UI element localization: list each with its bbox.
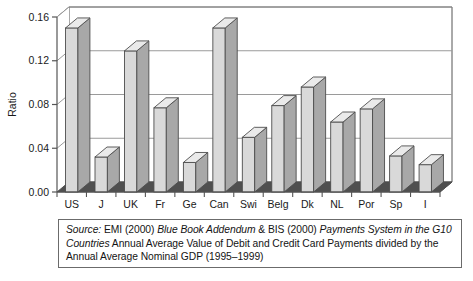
y-tick-label: 0.08 [29, 98, 50, 110]
x-tick-label-sp: Sp [389, 198, 402, 210]
y-axis-title: Ratio [6, 92, 18, 117]
y-tick-label: 0.00 [29, 186, 50, 198]
bar-chart: 0.000.040.080.120.16 USJUKFrGeCanSwiBelg… [0, 0, 473, 214]
x-tick-label-fr: Fr [155, 198, 165, 210]
x-tick-label-us: US [64, 198, 79, 210]
x-tick-label-uk: UK [123, 198, 138, 210]
bar-sp [390, 146, 414, 192]
x-tick-label-nl: NL [330, 198, 344, 210]
x-tick-label-ge: Ge [183, 198, 197, 210]
bar-nl [331, 112, 355, 192]
bar-dk [301, 77, 325, 192]
bar-por [360, 99, 384, 192]
bar-j [95, 147, 119, 192]
x-tick-label-j: J [99, 198, 104, 210]
bar-belg [272, 96, 296, 192]
caption-bis-segment: & BIS (2000) [256, 224, 320, 235]
caption-source-label: Source: [66, 224, 101, 235]
caption-emi-segment: EMI (2000) [101, 224, 157, 235]
x-axis: USJUKFrGeCanSwiBelgDkNLPorSpI [57, 192, 440, 210]
y-tick-label: 0.04 [29, 142, 50, 154]
bar-us [66, 18, 90, 192]
y-axis: 0.000.040.080.120.16 [29, 11, 57, 198]
bar-swi [242, 127, 266, 192]
bar-fr [154, 98, 178, 192]
y-tick-label: 0.16 [29, 11, 50, 23]
source-caption-text: Source: EMI (2000) Blue Book Addendum & … [66, 223, 455, 264]
x-tick-label-i: I [424, 198, 427, 210]
x-tick-label-belg: Belg [267, 198, 288, 210]
source-caption-box: Source: EMI (2000) Blue Book Addendum & … [58, 219, 462, 268]
bar-uk [124, 41, 148, 192]
x-tick-label-can: Can [209, 198, 228, 210]
figure-container: 0.000.040.080.120.16 USJUKFrGeCanSwiBelg… [0, 0, 473, 281]
bar-can [213, 18, 237, 192]
y-tick-label: 0.12 [29, 54, 50, 66]
caption-bluebook-title: Blue Book Addendum [157, 224, 255, 235]
caption-tail-segment: Annual Average Value of Debit and Credit… [66, 238, 438, 263]
x-tick-label-dk: Dk [301, 198, 315, 210]
x-tick-label-swi: Swi [240, 198, 257, 210]
x-tick-label-por: Por [358, 198, 375, 210]
